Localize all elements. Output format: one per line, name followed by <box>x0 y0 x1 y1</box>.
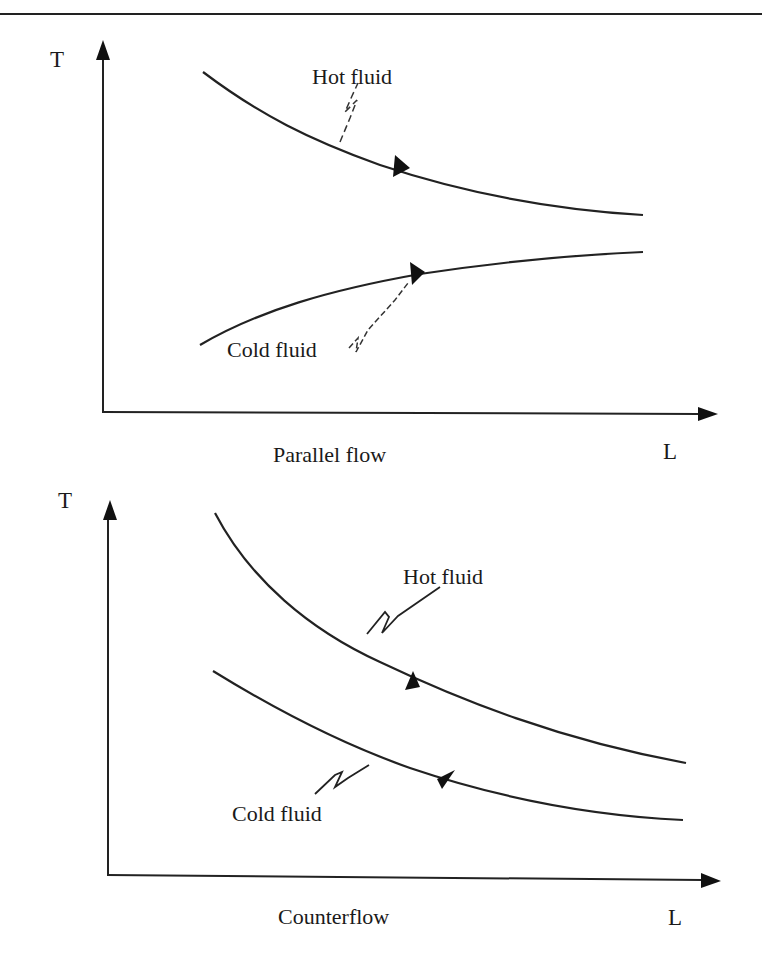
x-axis <box>102 412 700 414</box>
y-axis-arrow-icon <box>96 40 110 60</box>
parallel-flow-panel <box>96 40 718 421</box>
x-axis <box>107 875 702 880</box>
counterflow-x-axis-label: L <box>668 906 682 929</box>
x-axis-arrow-icon <box>701 873 721 888</box>
parallel-x-axis-label: L <box>663 440 677 463</box>
parallel-hot-fluid-label: Hot fluid <box>312 66 392 88</box>
parallel-cold-fluid-label: Cold fluid <box>227 339 317 361</box>
cold-fluid-flow-arrow-icon <box>410 262 425 285</box>
hot-fluid-curve <box>215 513 686 763</box>
parallel-y-axis-label: T <box>50 48 64 71</box>
counterflow-panel <box>103 500 721 888</box>
y-axis-arrow-icon <box>103 500 117 520</box>
counterflow-cold-fluid-label: Cold fluid <box>232 803 322 825</box>
counterflow-caption: Counterflow <box>278 906 389 928</box>
counterflow-hot-fluid-label: Hot fluid <box>403 566 483 588</box>
cold-fluid-flow-arrow-icon <box>437 770 455 789</box>
x-axis-arrow-icon <box>698 407 718 421</box>
hot-fluid-curve <box>203 72 643 215</box>
hot-fluid-leader <box>340 83 358 142</box>
cold-fluid-curve <box>200 252 643 345</box>
heat-exchanger-diagram <box>0 0 762 970</box>
counterflow-y-axis-label: T <box>58 489 72 512</box>
parallel-flow-caption: Parallel flow <box>273 444 386 466</box>
hot-fluid-leader <box>367 587 440 634</box>
cold-fluid-leader <box>315 765 369 794</box>
cold-fluid-leader <box>349 283 408 352</box>
